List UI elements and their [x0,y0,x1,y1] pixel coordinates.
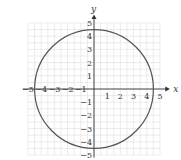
y-tick-label: 3 [87,45,92,54]
x-tick-label: −1 [75,85,87,94]
y-tick-label: 4 [87,32,92,41]
y-tick-label: −2 [80,111,92,120]
x-tick-label: −3 [49,85,61,94]
x-tick-label: 5 [157,92,162,101]
x-axis-label: x [173,84,178,94]
circle-graph: xy −5−4−3−2−112345−5−4−3−2−112345 [0,0,181,160]
x-tick-label: 4 [144,92,149,101]
y-tick-label: −1 [80,98,92,107]
x-tick-label: −2 [62,85,74,94]
y-tick-label: −4 [80,138,92,147]
y-tick-label: 5 [87,19,92,28]
y-tick-label: 2 [87,59,92,68]
y-tick-label: −3 [80,125,92,134]
x-tick-label: 1 [105,92,110,101]
x-tick-label: −5 [22,85,34,94]
x-tick-label: 2 [118,92,123,101]
tick-labels: −5−4−3−2−112345−5−4−3−2−112345 [22,19,162,160]
x-tick-label: 3 [131,92,136,101]
y-tick-label: 1 [87,72,92,81]
y-axis-label: y [90,4,97,14]
x-tick-label: −4 [35,85,47,94]
y-tick-label: −5 [80,151,92,160]
